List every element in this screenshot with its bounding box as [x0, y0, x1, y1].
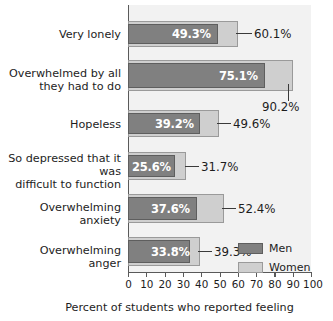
x-tick-label-20: 20: [158, 278, 171, 290]
legend-label-men: Men: [269, 242, 292, 255]
value-label-men-anxiety: 37.6%: [151, 202, 190, 216]
value-label-men-anger: 33.8%: [151, 245, 190, 259]
leader-line-women-so-depressed: [185, 166, 199, 167]
x-tick-label-90: 90: [287, 278, 300, 290]
category-label-overwhelmed: Overwhelmed by all they had to do: [0, 67, 121, 93]
value-label-women-anxiety: 52.4%: [238, 202, 275, 216]
legend-item-women: Women: [238, 260, 310, 275]
x-tick-20: [165, 273, 166, 277]
value-label-men-overwhelmed: 75.1%: [219, 69, 258, 83]
value-label-women-overwhelmed: 90.2%: [262, 100, 299, 114]
value-label-women-hopeless: 49.6%: [233, 117, 270, 131]
category-label-overwhelming-anxiety: Overwhelming anxiety: [0, 201, 121, 227]
legend-label-women: Women: [269, 261, 310, 274]
x-tick-label-100: 100: [303, 278, 323, 290]
leader-line-women-very-lonely: [236, 33, 252, 34]
category-label-overwhelming-anger: Overwhelming anger: [0, 244, 121, 270]
legend-swatch-men-icon: [238, 243, 263, 254]
value-label-men-hopeless: 39.2%: [155, 117, 194, 131]
x-tick-label-80: 80: [268, 278, 281, 290]
x-tick-30: [183, 273, 184, 277]
leader-line-women-hopeless: [217, 123, 231, 124]
x-axis-title-text: Percent of students who reported feeling: [65, 301, 294, 314]
x-axis-title: Percent of students who reported feeling: [0, 301, 333, 314]
legend-swatch-women-icon: [238, 262, 263, 273]
category-label-very-lonely: Very lonely: [0, 28, 121, 41]
x-tick-label-50: 50: [213, 278, 226, 290]
x-tick-label-60: 60: [232, 278, 245, 290]
x-tick-0: [128, 273, 129, 277]
x-tick-50: [220, 273, 221, 277]
value-label-men-so-depressed: 25.6%: [132, 160, 171, 174]
x-tick-label-40: 40: [195, 278, 208, 290]
leader-line-women-anxiety: [222, 208, 236, 209]
category-label-so-depressed: So depressed that it was difficult to fu…: [0, 152, 121, 192]
x-tick-10: [146, 273, 147, 277]
value-label-women-very-lonely: 60.1%: [254, 27, 291, 41]
x-tick-100: [311, 273, 312, 277]
bar-chart: Very lonely Overwhelmed by all they had …: [0, 0, 333, 321]
legend: Men Women: [238, 241, 310, 279]
leader-line-women-overwhelmed: [288, 84, 289, 101]
category-label-hopeless: Hopeless: [0, 118, 121, 131]
x-tick-label-0: 0: [125, 278, 132, 290]
x-tick-label-70: 70: [250, 278, 263, 290]
value-label-women-so-depressed: 31.7%: [201, 160, 238, 174]
value-label-men-very-lonely: 49.3%: [172, 27, 211, 41]
leader-line-women-anger: [198, 251, 212, 252]
x-tick-label-30: 30: [177, 278, 190, 290]
legend-item-men: Men: [238, 241, 310, 256]
x-tick-label-10: 10: [140, 278, 153, 290]
x-tick-40: [201, 273, 202, 277]
